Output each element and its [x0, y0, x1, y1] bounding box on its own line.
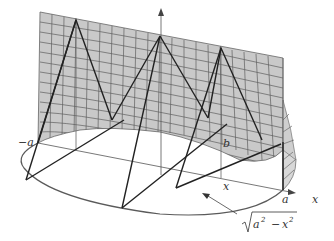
leader-line: [208, 196, 237, 214]
label-a: a: [282, 193, 289, 206]
half-width-formula: a 2 − x 2: [242, 212, 297, 232]
label-b: b: [223, 137, 230, 150]
svg-text:a: a: [253, 218, 260, 231]
label-x-point: x: [223, 180, 230, 193]
svg-text:x: x: [282, 218, 289, 231]
svg-text:2: 2: [260, 216, 266, 224]
x-axis-arrow-icon: [288, 189, 296, 195]
svg-text:−: −: [271, 218, 280, 231]
solid-diagram: −a a b x x a 2 − x 2: [0, 0, 334, 241]
leader-arrow-icon: [202, 193, 210, 199]
end-surface: [283, 100, 296, 190]
z-axis-arrow-icon: [158, 8, 164, 16]
label-neg-a: −a: [18, 136, 34, 149]
label-x-axis: x: [312, 193, 319, 206]
svg-text:2: 2: [288, 216, 294, 224]
